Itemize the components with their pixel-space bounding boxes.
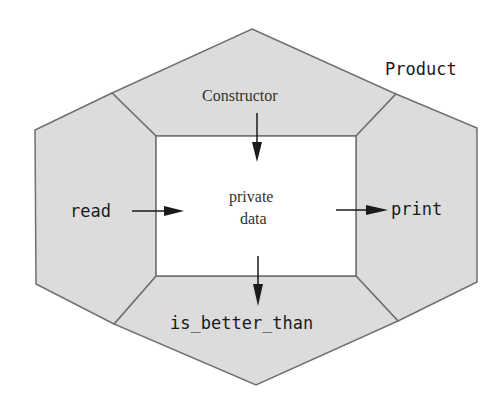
member-read-label: read [70,203,111,220]
segment-top [112,29,396,136]
core-line2-label: data [240,211,267,227]
member-print-label: print [391,201,442,218]
member-constructor-label: Constructor [202,88,278,104]
class-name-label: Product [385,61,457,78]
member-is-better-than-label: is_better_than [170,315,313,332]
core-line1-label: private [229,189,273,205]
